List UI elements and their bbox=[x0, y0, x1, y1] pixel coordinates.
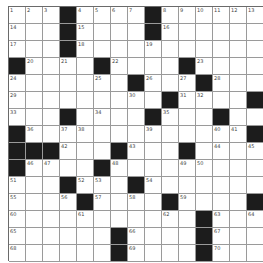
grid-cell[interactable] bbox=[94, 228, 111, 245]
grid-cell[interactable] bbox=[230, 245, 247, 262]
grid-cell[interactable] bbox=[230, 24, 247, 41]
grid-cell[interactable] bbox=[179, 211, 196, 228]
grid-cell[interactable]: 63 bbox=[213, 211, 230, 228]
grid-cell[interactable]: 57 bbox=[94, 194, 111, 211]
grid-cell[interactable]: 67 bbox=[213, 228, 230, 245]
grid-cell[interactable] bbox=[26, 92, 43, 109]
grid-cell[interactable] bbox=[43, 228, 60, 245]
grid-cell[interactable]: 30 bbox=[128, 92, 145, 109]
grid-cell[interactable]: 54 bbox=[145, 177, 162, 194]
grid-cell[interactable]: 16 bbox=[162, 24, 179, 41]
grid-cell[interactable] bbox=[26, 177, 43, 194]
grid-cell[interactable] bbox=[26, 41, 43, 58]
grid-cell[interactable]: 17 bbox=[9, 41, 26, 58]
grid-cell[interactable] bbox=[247, 109, 263, 126]
grid-cell[interactable]: 13 bbox=[247, 7, 263, 24]
grid-cell[interactable]: 53 bbox=[94, 177, 111, 194]
grid-cell[interactable]: 66 bbox=[128, 228, 145, 245]
grid-cell[interactable]: 70 bbox=[213, 245, 230, 262]
grid-cell[interactable] bbox=[111, 109, 128, 126]
grid-cell[interactable] bbox=[77, 245, 94, 262]
grid-cell[interactable]: 58 bbox=[128, 194, 145, 211]
grid-cell[interactable] bbox=[162, 126, 179, 143]
grid-cell[interactable] bbox=[60, 211, 77, 228]
grid-cell[interactable] bbox=[26, 109, 43, 126]
grid-cell[interactable] bbox=[128, 126, 145, 143]
grid-cell[interactable] bbox=[43, 92, 60, 109]
grid-cell[interactable]: 48 bbox=[111, 160, 128, 177]
grid-cell[interactable]: 50 bbox=[196, 160, 213, 177]
grid-cell[interactable]: 2 bbox=[26, 7, 43, 24]
grid-cell[interactable] bbox=[247, 24, 263, 41]
grid-cell[interactable]: 18 bbox=[77, 41, 94, 58]
grid-cell[interactable] bbox=[230, 143, 247, 160]
grid-cell[interactable]: 33 bbox=[9, 109, 26, 126]
grid-cell[interactable] bbox=[162, 75, 179, 92]
grid-cell[interactable] bbox=[77, 160, 94, 177]
grid-cell[interactable] bbox=[196, 109, 213, 126]
grid-cell[interactable] bbox=[196, 143, 213, 160]
grid-cell[interactable] bbox=[213, 92, 230, 109]
grid-cell[interactable]: 55 bbox=[9, 194, 26, 211]
grid-cell[interactable] bbox=[43, 24, 60, 41]
grid-cell[interactable]: 25 bbox=[94, 75, 111, 92]
grid-cell[interactable]: 49 bbox=[179, 160, 196, 177]
grid-cell[interactable]: 26 bbox=[145, 75, 162, 92]
grid-cell[interactable] bbox=[230, 194, 247, 211]
grid-cell[interactable] bbox=[111, 75, 128, 92]
grid-cell[interactable] bbox=[179, 177, 196, 194]
grid-cell[interactable]: 35 bbox=[162, 109, 179, 126]
grid-cell[interactable] bbox=[128, 58, 145, 75]
grid-cell[interactable] bbox=[43, 126, 60, 143]
grid-cell[interactable] bbox=[26, 228, 43, 245]
grid-cell[interactable] bbox=[179, 24, 196, 41]
grid-cell[interactable] bbox=[213, 24, 230, 41]
grid-cell[interactable]: 41 bbox=[230, 126, 247, 143]
grid-cell[interactable] bbox=[77, 75, 94, 92]
grid-cell[interactable] bbox=[213, 194, 230, 211]
grid-cell[interactable] bbox=[162, 228, 179, 245]
grid-cell[interactable]: 36 bbox=[26, 126, 43, 143]
grid-cell[interactable] bbox=[179, 126, 196, 143]
grid-cell[interactable] bbox=[94, 245, 111, 262]
grid-cell[interactable] bbox=[196, 177, 213, 194]
grid-cell[interactable] bbox=[179, 41, 196, 58]
grid-cell[interactable] bbox=[145, 160, 162, 177]
grid-cell[interactable]: 11 bbox=[213, 7, 230, 24]
grid-cell[interactable]: 4 bbox=[77, 7, 94, 24]
grid-cell[interactable] bbox=[179, 228, 196, 245]
grid-cell[interactable]: 3 bbox=[43, 7, 60, 24]
grid-cell[interactable] bbox=[196, 24, 213, 41]
grid-cell[interactable]: 59 bbox=[179, 194, 196, 211]
grid-cell[interactable] bbox=[162, 245, 179, 262]
grid-cell[interactable]: 8 bbox=[162, 7, 179, 24]
grid-cell[interactable]: 45 bbox=[247, 143, 263, 160]
grid-cell[interactable] bbox=[179, 245, 196, 262]
grid-cell[interactable] bbox=[111, 41, 128, 58]
grid-cell[interactable]: 43 bbox=[128, 143, 145, 160]
grid-cell[interactable] bbox=[60, 75, 77, 92]
grid-cell[interactable]: 28 bbox=[213, 75, 230, 92]
grid-cell[interactable] bbox=[162, 160, 179, 177]
grid-cell[interactable] bbox=[145, 228, 162, 245]
grid-cell[interactable] bbox=[111, 24, 128, 41]
grid-cell[interactable] bbox=[213, 160, 230, 177]
grid-cell[interactable]: 61 bbox=[77, 211, 94, 228]
grid-cell[interactable]: 38 bbox=[77, 126, 94, 143]
grid-cell[interactable] bbox=[162, 143, 179, 160]
grid-cell[interactable] bbox=[77, 109, 94, 126]
grid-cell[interactable]: 34 bbox=[94, 109, 111, 126]
grid-cell[interactable]: 31 bbox=[179, 92, 196, 109]
grid-cell[interactable] bbox=[128, 24, 145, 41]
grid-cell[interactable] bbox=[230, 228, 247, 245]
grid-cell[interactable]: 27 bbox=[179, 75, 196, 92]
grid-cell[interactable]: 40 bbox=[213, 126, 230, 143]
grid-cell[interactable] bbox=[230, 160, 247, 177]
grid-cell[interactable] bbox=[247, 228, 263, 245]
grid-cell[interactable]: 42 bbox=[60, 143, 77, 160]
grid-cell[interactable]: 62 bbox=[162, 211, 179, 228]
grid-cell[interactable] bbox=[26, 75, 43, 92]
grid-cell[interactable] bbox=[162, 177, 179, 194]
grid-cell[interactable] bbox=[111, 92, 128, 109]
grid-cell[interactable] bbox=[26, 24, 43, 41]
